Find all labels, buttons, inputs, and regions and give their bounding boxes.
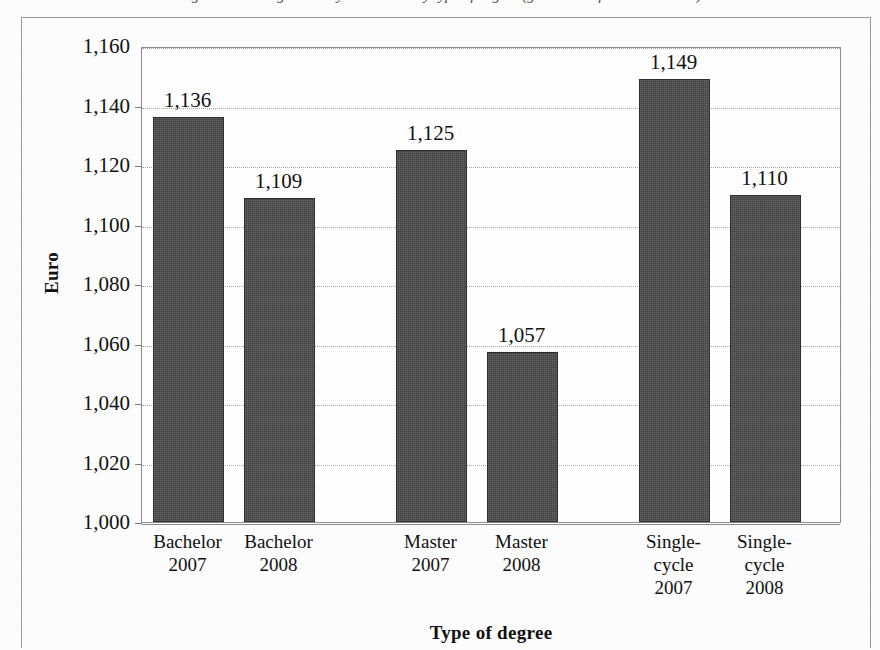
bar: [153, 117, 224, 522]
bar-value-label: 1,109: [229, 171, 328, 192]
y-axis-title: Euro: [41, 213, 63, 333]
x-axis-category-line: Master: [464, 530, 579, 553]
y-axis-tick: [135, 285, 142, 286]
bar-value-label: 1,110: [715, 168, 814, 189]
gridline: [142, 108, 840, 109]
bar: [244, 198, 315, 522]
bar: [396, 150, 467, 522]
y-axis-tick-label: 1,140: [12, 96, 130, 117]
bar: [730, 195, 801, 522]
y-axis-tick-label: 1,080: [12, 274, 130, 295]
y-axis-tick: [135, 464, 142, 465]
y-axis-tick-label: 1,060: [12, 334, 130, 355]
x-axis-title: Type of degree: [141, 622, 841, 644]
y-axis-tick-label: 1,160: [12, 36, 130, 57]
y-axis-tick-label: 1,000: [12, 512, 130, 533]
y-axis-tick-label: 1,020: [12, 453, 130, 474]
y-axis-tick: [135, 404, 142, 405]
bar: [639, 79, 710, 522]
x-axis-category-line: 2008: [707, 576, 822, 599]
y-axis-labels: 1,1601,1401,1201,1001,0801,0601,0401,020…: [0, 0, 130, 650]
x-axis-category-line: Bachelor: [221, 530, 336, 553]
bar-value-label: 1,057: [472, 325, 571, 346]
scanned-page: Figure 3 - Average monthly net income by…: [0, 0, 880, 650]
y-axis-tick-label: 1,100: [12, 215, 130, 236]
x-axis-category-line: cycle: [707, 553, 822, 576]
bar-chart: 1,1601,1401,1201,1001,0801,0601,0401,020…: [0, 0, 880, 650]
x-axis-category-label: Single-cycle2008: [707, 530, 822, 599]
plot-area: [141, 47, 841, 523]
y-axis-tick-label: 1,120: [12, 155, 130, 176]
gridline: [142, 48, 840, 49]
bar-value-label: 1,149: [624, 52, 723, 73]
gridline: [142, 524, 840, 525]
y-axis-tick-label: 1,040: [12, 393, 130, 414]
x-axis-category-label: Master2008: [464, 530, 579, 576]
bar-value-label: 1,136: [138, 90, 237, 111]
x-axis-category-line: 2008: [221, 553, 336, 576]
x-axis-category-label: Bachelor2008: [221, 530, 336, 576]
y-axis-tick: [135, 345, 142, 346]
x-axis-category-line: 2008: [464, 553, 579, 576]
bar-value-label: 1,125: [381, 123, 480, 144]
y-axis-tick: [135, 166, 142, 167]
y-axis-tick: [135, 523, 142, 524]
y-axis-tick: [135, 226, 142, 227]
x-axis-category-line: Single-: [707, 530, 822, 553]
bar: [487, 352, 558, 522]
